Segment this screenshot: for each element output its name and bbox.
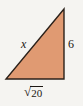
radical-sign-icon: √ <box>24 85 31 98</box>
base-label: √20 <box>24 85 43 100</box>
hypotenuse-label: x <box>21 38 26 50</box>
vertical-leg-label: 6 <box>68 38 74 50</box>
radicand-value: 20 <box>30 86 43 100</box>
triangle-figure: x 6 √20 <box>0 0 83 106</box>
triangle-polygon <box>6 9 64 79</box>
